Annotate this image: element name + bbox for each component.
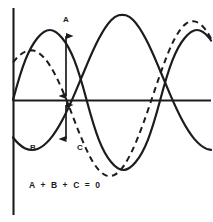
sum-equation-text: A + B + C = 0 <box>29 180 102 190</box>
wave-a-label: A <box>63 15 69 24</box>
wave-b-curve <box>13 15 211 150</box>
waveform-figure: once motor wire. A B C A + B + C = 0 <box>0 0 213 222</box>
wave-c-label: C <box>77 143 83 152</box>
wave-b-label: B <box>30 143 36 152</box>
